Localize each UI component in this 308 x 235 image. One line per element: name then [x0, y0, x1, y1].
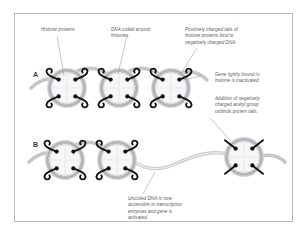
figure-root: A B Histone proteins DNA coiled around h… [0, 0, 308, 235]
nucleosome-b3-acetylated [224, 137, 263, 176]
caption-uncoiled-dna-activated: Uncoiled DNA is now accessible to transc… [128, 196, 212, 221]
nucleosome-a2 [99, 68, 140, 107]
figure-panel: A B Histone proteins DNA coiled around h… [14, 13, 293, 222]
caption-histone-proteins: Histone proteins [41, 27, 103, 33]
nucleosome-a3 [151, 68, 192, 107]
panel-b-leader-lines [143, 118, 231, 194]
caption-gene-inactivated: Gene tightly bound to histone is inactiv… [215, 72, 293, 85]
caption-dna-coiled-around-histones: DNA coiled around histones [111, 27, 173, 40]
caption-acetyl-group-unbinds: Addition of negatively charged acetyl gr… [215, 96, 293, 115]
nucleosome-a1 [47, 68, 88, 107]
nucleosome-b2 [97, 140, 138, 179]
panel-letter-a: A [33, 71, 38, 78]
caption-positively-charged-tails: Positively charged tails of histone prot… [185, 27, 269, 46]
nucleosome-b1 [45, 140, 86, 179]
panel-letter-b: B [33, 141, 38, 148]
